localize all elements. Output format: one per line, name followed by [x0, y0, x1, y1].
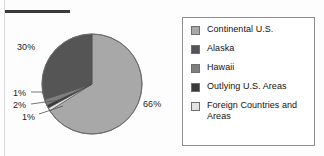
legend-item-label: Alaska: [207, 43, 234, 54]
legend-item-label: Outlying U.S. Areas: [207, 81, 287, 92]
legend-item[interactable]: Hawaii: [191, 62, 308, 73]
legend-item-label: Foreign Countries and Areas: [207, 100, 308, 122]
left-vertical-rule: [4, 0, 5, 156]
legend-item[interactable]: Alaska: [191, 43, 308, 54]
pie-label-alaska: 30%: [17, 42, 35, 52]
pie-chart: [36, 28, 148, 140]
pie-label-continental: 66%: [143, 99, 161, 109]
pie-slices: [42, 34, 142, 134]
pie-label-thin-top: 1%: [13, 88, 26, 98]
color-swatch-icon: [191, 45, 200, 54]
chart-legend: Continental U.S.AlaskaHawaiiOutlying U.S…: [182, 17, 315, 146]
color-swatch-icon: [191, 102, 200, 111]
legend-item-label: Continental U.S.: [207, 24, 273, 35]
pie-chart-svg: [36, 28, 148, 140]
color-swatch-icon: [191, 64, 200, 73]
pie-chart-figure: 30% 66% 1% 2% 1% Continental U.S.AlaskaH…: [0, 0, 324, 156]
color-swatch-icon: [191, 83, 200, 92]
pie-label-thin-bottom: 1%: [22, 112, 35, 122]
legend-item[interactable]: Foreign Countries and Areas: [191, 100, 308, 122]
color-swatch-icon: [191, 26, 200, 35]
legend-item[interactable]: Continental U.S.: [191, 24, 308, 35]
top-horizontal-rule: [5, 10, 70, 13]
legend-item-label: Hawaii: [207, 62, 234, 73]
legend-item[interactable]: Outlying U.S. Areas: [191, 81, 308, 92]
pie-label-thin-mid: 2%: [13, 100, 26, 110]
